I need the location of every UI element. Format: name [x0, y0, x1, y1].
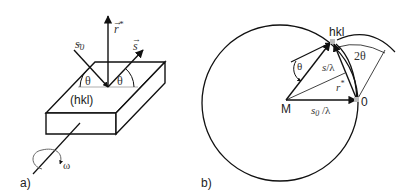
panel-a-label: a) [20, 176, 31, 190]
panel-a: ω s0 → s → r* → θ θ (hkl) a) [20, 16, 165, 190]
origin-label: 0 [361, 95, 368, 109]
panel-b-label: b) [201, 176, 212, 190]
theta-label-b: θ [297, 60, 302, 72]
vector-bar: → [132, 34, 141, 44]
hkl-plane-label: (hkl) [70, 93, 93, 107]
vector-bar: → [113, 17, 122, 27]
diffraction-diagram: ω s0 → s → r* → θ θ (hkl) a) [0, 0, 417, 196]
theta-right-label: θ [117, 74, 123, 88]
theta-left-label: θ [85, 74, 91, 88]
r-star-label-b: r* [336, 79, 344, 93]
panel-b: hkl M 0 θ 2θ s/λ r* s0 /λ b) [201, 25, 395, 190]
crystal-slab [46, 62, 165, 134]
m-label: M [281, 102, 291, 116]
s0-lambda-label: s0 /λ [311, 104, 331, 118]
vector-bar: → [74, 38, 83, 48]
hkl-point [330, 39, 335, 44]
two-theta-label: 2θ [354, 49, 366, 63]
s-lambda-label: s/λ [322, 61, 335, 73]
omega-label: ω [63, 159, 70, 171]
origin-point [354, 97, 359, 102]
ewald-sphere [202, 25, 358, 181]
reciprocal-arc [337, 35, 395, 52]
hkl-label: hkl [329, 25, 344, 39]
